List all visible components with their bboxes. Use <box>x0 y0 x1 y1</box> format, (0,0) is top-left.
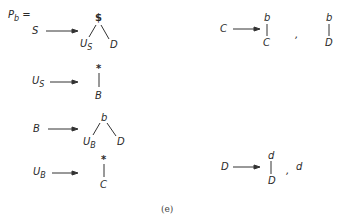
figure-caption: (e) <box>161 204 173 214</box>
alt2-root: b <box>326 13 332 23</box>
alt1-root: b <box>264 13 270 23</box>
alt1-root-d: d <box>268 151 274 161</box>
child-ub: UB <box>83 137 96 151</box>
child-d2: D <box>117 137 125 147</box>
lhs-ub: UB <box>33 167 46 181</box>
separator-2: , <box>286 166 289 176</box>
leaf-d: d <box>296 162 302 172</box>
child-c: C <box>100 180 107 190</box>
lhs-b: B <box>33 124 40 134</box>
lhs-s: S <box>32 26 38 36</box>
root-star2: * <box>101 155 106 165</box>
diagram-lines <box>0 0 340 219</box>
child-d: D <box>110 40 118 50</box>
grammar-title: Pb = <box>8 10 31 24</box>
lhs-d: D <box>221 162 229 172</box>
separator: , <box>295 30 298 40</box>
child-us: US <box>80 39 92 53</box>
root-dollar: $ <box>95 13 102 23</box>
root-star: * <box>96 64 101 74</box>
alt1-child: C <box>263 38 270 48</box>
root-b: b <box>101 113 107 123</box>
lhs-c: C <box>220 24 227 34</box>
child-b: B <box>95 91 102 101</box>
alt2-child: D <box>325 38 333 48</box>
lhs-us: US <box>32 76 44 90</box>
alt1-child-d: D <box>268 176 276 186</box>
